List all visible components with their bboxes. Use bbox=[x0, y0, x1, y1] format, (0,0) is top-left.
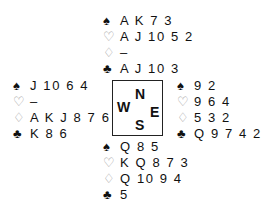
north-diamonds-row: ♢– bbox=[103, 45, 194, 61]
north-spades-row: ♠A K 7 3 bbox=[103, 13, 194, 29]
north-diamonds: – bbox=[120, 45, 129, 60]
east-hand: ♠9 2 ♡9 6 4 ♢5 3 2 ♣Q 9 7 4 2 bbox=[177, 78, 262, 142]
compass-east: E bbox=[150, 105, 159, 119]
diamond-icon: ♢ bbox=[13, 110, 30, 126]
spade-icon: ♠ bbox=[103, 13, 120, 29]
west-diamonds-row: ♢A K J 8 7 6 bbox=[13, 110, 110, 126]
west-clubs-row: ♣K 8 6 bbox=[13, 126, 110, 142]
compass-north: N bbox=[135, 87, 145, 101]
diamond-icon: ♢ bbox=[103, 171, 120, 187]
spade-icon: ♠ bbox=[177, 78, 194, 94]
west-hearts: – bbox=[30, 94, 39, 109]
north-hearts-row: ♡A J 10 5 2 bbox=[103, 29, 194, 45]
east-diamonds-row: ♢5 3 2 bbox=[177, 110, 262, 126]
east-diamonds: 5 3 2 bbox=[194, 110, 231, 125]
south-diamonds-row: ♢Q 10 9 4 bbox=[103, 171, 189, 187]
west-hand: ♠J 10 6 4 ♡– ♢A K J 8 7 6 ♣K 8 6 bbox=[13, 78, 110, 142]
south-hearts-row: ♡K Q 8 7 3 bbox=[103, 155, 189, 171]
diamond-icon: ♢ bbox=[103, 45, 120, 61]
north-clubs-row: ♣A J 10 3 bbox=[103, 61, 194, 77]
club-icon: ♣ bbox=[103, 61, 120, 77]
south-clubs: 5 bbox=[120, 187, 129, 202]
east-spades: 9 2 bbox=[194, 78, 217, 93]
heart-icon: ♡ bbox=[177, 94, 194, 110]
north-hearts: A J 10 5 2 bbox=[120, 29, 194, 44]
south-spades-row: ♠Q 8 5 bbox=[103, 139, 189, 155]
compass-south: S bbox=[135, 118, 144, 132]
east-spades-row: ♠9 2 bbox=[177, 78, 262, 94]
compass-west: W bbox=[117, 100, 130, 114]
north-clubs: A J 10 3 bbox=[120, 61, 180, 76]
west-spades: J 10 6 4 bbox=[30, 78, 89, 93]
south-spades: Q 8 5 bbox=[120, 139, 160, 154]
east-hearts-row: ♡9 6 4 bbox=[177, 94, 262, 110]
west-hearts-row: ♡– bbox=[13, 94, 110, 110]
south-diamonds: Q 10 9 4 bbox=[120, 171, 183, 186]
heart-icon: ♡ bbox=[13, 94, 30, 110]
heart-icon: ♡ bbox=[103, 29, 120, 45]
north-hand: ♠A K 7 3 ♡A J 10 5 2 ♢– ♣A J 10 3 bbox=[103, 13, 194, 77]
west-clubs: K 8 6 bbox=[30, 126, 68, 141]
west-spades-row: ♠J 10 6 4 bbox=[13, 78, 110, 94]
east-clubs: Q 9 7 4 2 bbox=[194, 126, 262, 141]
east-clubs-row: ♣Q 9 7 4 2 bbox=[177, 126, 262, 142]
south-hand: ♠Q 8 5 ♡K Q 8 7 3 ♢Q 10 9 4 ♣5 bbox=[103, 139, 189, 203]
north-spades: A K 7 3 bbox=[120, 13, 173, 28]
west-diamonds: A K J 8 7 6 bbox=[30, 110, 110, 125]
club-icon: ♣ bbox=[13, 126, 30, 142]
heart-icon: ♡ bbox=[103, 155, 120, 171]
east-hearts: 9 6 4 bbox=[194, 94, 231, 109]
club-icon: ♣ bbox=[103, 187, 120, 203]
spade-icon: ♠ bbox=[103, 139, 120, 155]
south-clubs-row: ♣5 bbox=[103, 187, 189, 203]
south-hearts: K Q 8 7 3 bbox=[120, 155, 189, 170]
compass-box: N W E S bbox=[112, 80, 163, 136]
diamond-icon: ♢ bbox=[177, 110, 194, 126]
spade-icon: ♠ bbox=[13, 78, 30, 94]
